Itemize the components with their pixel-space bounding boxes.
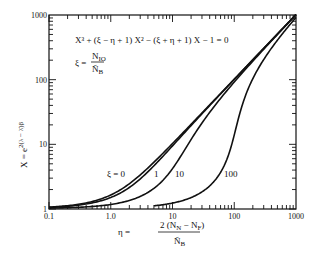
xi-definition: ξ = NIO ÑB — [75, 51, 106, 76]
eta-lhs: η = — [118, 227, 130, 237]
equation-text: X³ + (ξ − η + 1) X² − (ξ + η + 1) X − 1 … — [75, 35, 229, 45]
curve-label-xi0: ξ = 0 — [107, 169, 126, 179]
x-axis-label: η = 2 (NN − NF) ÑB — [118, 220, 204, 248]
xi-denominator: ÑB — [92, 64, 104, 76]
curve-label-xi100: 100 — [224, 169, 238, 179]
svg-text:X = e2(λ − λ̂)β: X = e2(λ − λ̂)β — [17, 122, 29, 168]
eta-denominator: ÑB — [174, 236, 186, 248]
y-tick-label: 100 — [35, 76, 47, 85]
x-tick-label: 100 — [228, 212, 240, 221]
y-axis-label: X = e2(λ − λ̂)β — [17, 122, 29, 168]
x-tick-label: 1000 — [288, 212, 304, 221]
xi-numerator: NIO — [92, 51, 106, 63]
y-tick-label: 1 — [43, 205, 47, 214]
y-tick-label: 10 — [39, 140, 47, 149]
curve-label-xi1: 1 — [154, 169, 159, 179]
chart: 0.11.01010010001101001000 X³ + (ξ − η + … — [0, 0, 312, 255]
y-tick-label: 1000 — [31, 11, 47, 20]
x-tick-label: 1.0 — [106, 212, 116, 221]
xi-lhs: ξ = — [75, 58, 86, 68]
eta-numerator: 2 (NN − NF) — [160, 220, 204, 232]
curve-label-xi10: 10 — [175, 169, 185, 179]
